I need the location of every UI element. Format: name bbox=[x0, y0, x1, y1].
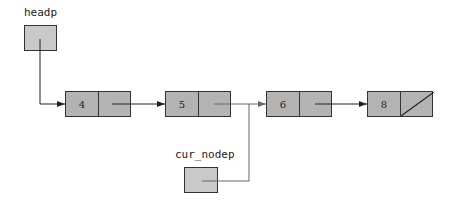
cur-nodep-arrow bbox=[202, 104, 249, 181]
pointer-arrows bbox=[0, 0, 453, 203]
headp-arrow bbox=[40, 39, 65, 104]
